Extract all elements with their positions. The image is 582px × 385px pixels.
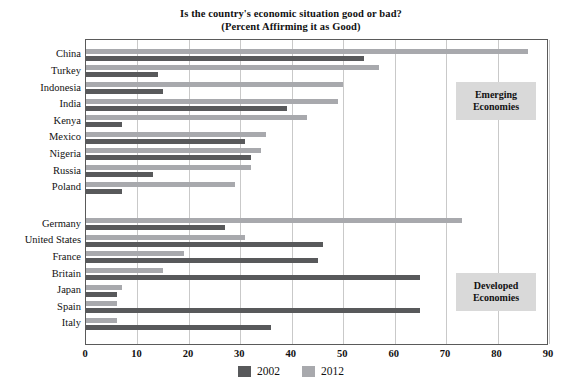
gridline: [343, 40, 344, 344]
chart-title-block: Is the country's economic situation good…: [0, 8, 582, 33]
legend-swatch-icon: [238, 366, 251, 377]
y-axis-label: Poland: [0, 181, 81, 192]
bar-2002: [86, 308, 420, 313]
legend-label: 2012: [321, 365, 344, 377]
gridline: [395, 40, 396, 344]
chart-legend: 20022012: [0, 365, 582, 377]
y-axis-label: Germany: [0, 217, 81, 228]
y-axis-label: France: [0, 250, 81, 261]
x-axis-tick-label: 0: [82, 348, 87, 359]
bar-2012: [86, 251, 184, 256]
annotation-line-1: Emerging: [473, 89, 519, 101]
bar-2012: [86, 285, 122, 290]
chart-subtitle: (Percent Affirming it as Good): [0, 21, 582, 34]
legend-item[interactable]: 2002: [238, 365, 280, 377]
x-axis-tick-label: 40: [286, 348, 297, 359]
annotation-developed-economies: DevelopedEconomies: [456, 273, 536, 311]
bar-2012: [86, 99, 338, 104]
y-axis-label: Turkey: [0, 64, 81, 75]
bar-2012: [86, 115, 307, 120]
legend-item[interactable]: 2012: [302, 365, 344, 377]
y-axis-label: Indonesia: [0, 81, 81, 92]
x-axis-tick-label: 60: [388, 348, 399, 359]
bar-2002: [86, 292, 117, 297]
bar-2012: [86, 65, 379, 70]
y-axis-label: Kenya: [0, 114, 81, 125]
bar-2012: [86, 268, 163, 273]
x-axis-tick-label: 10: [131, 348, 142, 359]
annotation-line-2: Economies: [473, 101, 519, 113]
bar-2002: [86, 122, 122, 127]
y-axis-label: Mexico: [0, 131, 81, 142]
bar-2002: [86, 89, 163, 94]
gridline: [446, 40, 447, 344]
x-axis-tick-label: 80: [491, 348, 502, 359]
bar-2012: [86, 49, 528, 54]
bar-2002: [86, 139, 245, 144]
bar-2012: [86, 132, 266, 137]
bar-2002: [86, 189, 122, 194]
y-axis-label: Japan: [0, 284, 81, 295]
bar-2012: [86, 182, 235, 187]
x-axis-tick-label: 30: [234, 348, 245, 359]
chart-root: Is the country's economic situation good…: [0, 0, 582, 385]
y-axis-label: Spain: [0, 300, 81, 311]
bar-2002: [86, 242, 323, 247]
annotation-text: EmergingEconomies: [473, 89, 519, 113]
annotation-line-2: Economies: [473, 292, 519, 304]
bar-2002: [86, 325, 271, 330]
y-axis-label: Russia: [0, 164, 81, 175]
bar-2002: [86, 275, 420, 280]
annotation-emerging-economies: EmergingEconomies: [456, 82, 536, 120]
y-axis-label: United States: [0, 234, 81, 245]
bar-2012: [86, 165, 251, 170]
bar-2002: [86, 106, 287, 111]
legend-swatch-icon: [302, 366, 315, 377]
y-axis-label: Nigeria: [0, 147, 81, 158]
bar-2002: [86, 72, 158, 77]
bar-2012: [86, 235, 245, 240]
bar-2012: [86, 218, 462, 223]
legend-label: 2002: [257, 365, 280, 377]
chart-title: Is the country's economic situation good…: [0, 8, 582, 21]
x-axis-tick-label: 20: [183, 348, 194, 359]
bar-2012: [86, 82, 343, 87]
bar-2012: [86, 318, 117, 323]
x-axis-tick-label: 70: [440, 348, 451, 359]
bar-2002: [86, 56, 364, 61]
bar-2002: [86, 155, 251, 160]
bar-2002: [86, 172, 153, 177]
x-axis-tick-label: 90: [543, 348, 554, 359]
y-axis-label: Britain: [0, 267, 81, 278]
y-axis-labels: ChinaTurkeyIndonesiaIndiaKenyaMexicoNige…: [0, 39, 81, 345]
bar-2002: [86, 225, 225, 230]
bar-2012: [86, 301, 117, 306]
annotation-line-1: Developed: [473, 280, 519, 292]
bar-2012: [86, 148, 261, 153]
y-axis-label: China: [0, 48, 81, 59]
x-axis-tick-label: 50: [337, 348, 348, 359]
y-axis-label: Italy: [0, 317, 81, 328]
y-axis-label: India: [0, 98, 81, 109]
annotation-text: DevelopedEconomies: [473, 280, 519, 304]
gridline: [549, 40, 550, 344]
bar-2002: [86, 258, 318, 263]
